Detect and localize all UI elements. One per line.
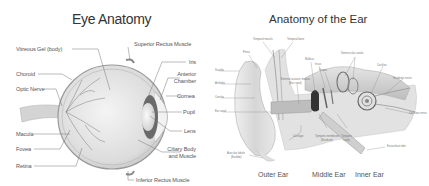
label-eardrum: (Eardrum) — [321, 139, 333, 142]
label-temporal-bone: Temporal bone — [287, 38, 304, 41]
section-outer-ear: Outer Ear — [258, 171, 288, 178]
label-pinna: Pinna — [243, 51, 250, 54]
label-vestibular-nerve: Vestibular nerve — [393, 77, 412, 80]
label-cochlea: Cochlea — [377, 64, 387, 67]
eye-anatomy-panel: Eye Anatomy — [0, 0, 215, 186]
label-choroid: Choroid — [16, 71, 35, 77]
section-middle-ear: Middle Ear — [312, 171, 345, 178]
ear-anatomy-panel: Anatomy of the Ear — [215, 0, 429, 186]
label-incus: Incus — [315, 63, 321, 66]
label-malleus: Malleus — [305, 58, 314, 61]
label-external-acoustic-meatus: External acoustic meatus — [281, 78, 310, 81]
label-iris: Iris — [189, 59, 196, 65]
label-cornea: Cornea — [177, 93, 195, 99]
label-optic-nerve: Optic Nerve — [16, 86, 44, 92]
ear-illustration — [215, 0, 429, 186]
label-temporal-muscle: Temporal muscle — [253, 38, 273, 41]
label-macula: Macula — [16, 131, 33, 137]
label-ear-canal-paren: (Ear canal) — [289, 82, 302, 85]
label-scapha: Scapha — [215, 69, 224, 72]
label-and-muscle: and Muscle — [160, 153, 196, 159]
label-semicircular-canals: Semicircular canals — [341, 52, 364, 55]
label-chamber: Chamber — [170, 78, 196, 84]
section-inner-ear: Inner Ear — [355, 171, 384, 178]
label-concha: Concha — [215, 96, 224, 99]
label-tympanic: Tympanic — [341, 135, 352, 138]
label-ear-canal: Ear canal — [215, 110, 226, 113]
label-anterior: Anterior — [170, 71, 196, 77]
label-lens: Lens — [184, 128, 196, 134]
label-ciliary-body: Ciliary Body — [160, 146, 196, 152]
label-vitreous-gel: Vitreous Gel (body) — [16, 46, 62, 52]
label-stapes: Stapes — [319, 69, 327, 72]
label-cochlear-nerve: Cochlear nerve — [409, 112, 427, 115]
label-retina: Retina — [16, 163, 32, 169]
label-inferior-rectus-muscle: Inferior Rectus Muscle — [136, 177, 189, 183]
label-eustachian-tube: Eustachian tube — [387, 145, 406, 148]
label-fovea: Fovea — [16, 146, 31, 152]
label-cavity: cavity — [343, 139, 350, 142]
label-earlobe: (Earlobe) — [231, 156, 242, 159]
label-cartilage: Cartilage — [293, 135, 303, 138]
label-superior-rectus-muscle: Superior Rectus Muscle — [134, 41, 191, 47]
label-antihelix: Antihelix — [215, 82, 225, 85]
label-pupil: Pupil — [183, 109, 195, 115]
label-auricular-lobule: Auricular lobule — [227, 152, 245, 155]
label-tympanic-membrane: Tympanic membrane — [315, 135, 339, 138]
